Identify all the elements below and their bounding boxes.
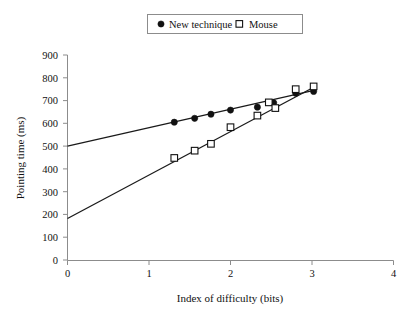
data-point: [254, 104, 260, 110]
x-tick-0: 0: [65, 268, 70, 279]
y-tick-800: 800: [42, 73, 58, 84]
data-point: [192, 115, 198, 121]
data-point: [254, 112, 261, 119]
chart-figure: New technique Mouse 900: [0, 0, 417, 319]
y-tick-100: 100: [42, 232, 58, 243]
x-axis-ticks: [68, 261, 394, 266]
series-new-technique-points: [171, 88, 317, 125]
data-point: [292, 86, 299, 93]
x-tick-4: 4: [391, 268, 397, 279]
x-axis-tick-labels: 0 1 2 3 4: [65, 268, 397, 279]
x-axis-title: Index of difficulty (bits): [177, 292, 284, 305]
chart-legend: New technique Mouse: [148, 15, 303, 34]
data-point: [208, 141, 215, 148]
data-point: [171, 155, 178, 162]
legend-marker-filled-circle-icon: [158, 21, 164, 27]
y-tick-300: 300: [42, 187, 58, 198]
legend-label-mouse: Mouse: [249, 19, 278, 30]
y-axis-tick-labels: 900 800 700 600 500 400 300 200 100 0: [42, 50, 58, 266]
y-tick-600: 600: [42, 118, 58, 129]
data-point: [310, 83, 317, 90]
data-point: [272, 105, 279, 112]
data-point: [227, 124, 234, 131]
y-axis-title: Pointing time (ms): [14, 116, 27, 199]
data-point: [227, 107, 233, 113]
y-tick-0: 0: [53, 255, 58, 266]
chart-axes: 900 800 700 600 500 400 300 200 100 0 0: [14, 50, 397, 305]
scatter-plot: New technique Mouse 900: [0, 0, 417, 319]
x-tick-1: 1: [146, 268, 151, 279]
data-point: [171, 119, 177, 125]
y-tick-500: 500: [42, 141, 58, 152]
legend-marker-open-square-icon: [236, 21, 243, 28]
x-tick-2: 2: [228, 268, 233, 279]
data-point: [191, 147, 198, 154]
data-point: [208, 111, 214, 117]
y-tick-200: 200: [42, 209, 58, 220]
legend-label-new-technique: New technique: [169, 19, 233, 30]
y-tick-700: 700: [42, 95, 58, 106]
y-axis-ticks: [63, 55, 68, 260]
data-point: [266, 99, 273, 106]
y-tick-400: 400: [42, 164, 58, 175]
x-tick-3: 3: [309, 268, 314, 279]
y-tick-900: 900: [42, 50, 58, 61]
